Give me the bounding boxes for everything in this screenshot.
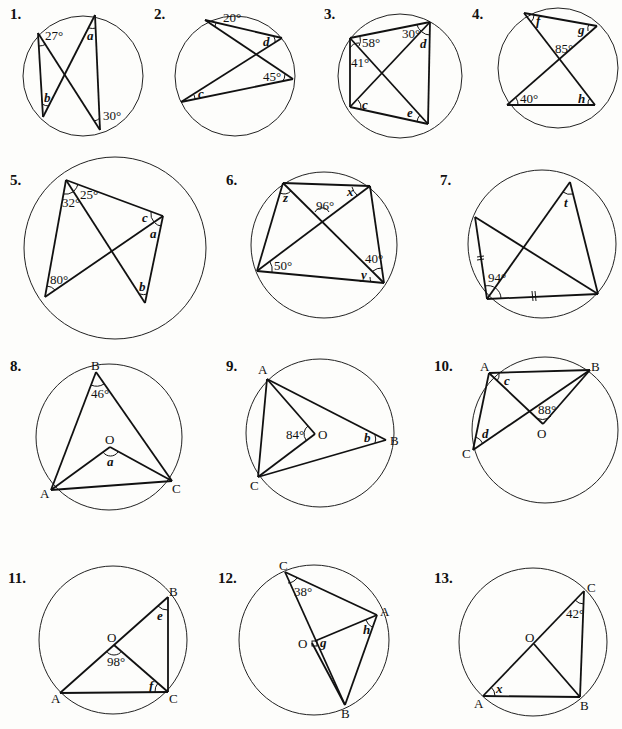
point-label-B: B bbox=[580, 698, 589, 713]
angle-label: c bbox=[362, 97, 368, 112]
angle-label: 32° bbox=[62, 195, 80, 210]
angle-label: d bbox=[420, 36, 427, 51]
point-label-C: C bbox=[169, 691, 178, 706]
angle-label: 88° bbox=[538, 402, 556, 417]
point-label-C: C bbox=[587, 580, 596, 595]
point-label-O: O bbox=[318, 427, 327, 442]
point-label-O: O bbox=[105, 432, 114, 447]
problem-2: 2. 20° d 45° c bbox=[150, 0, 310, 140]
angle-label: g bbox=[577, 22, 585, 37]
angle-label: 30° bbox=[402, 26, 420, 41]
circle-diagram-5: 32° 25° c a 80° b bbox=[0, 160, 200, 310]
angle-label: 84° bbox=[286, 427, 304, 442]
problem-12: 12. C A O B 38° h g bbox=[200, 530, 420, 729]
point-label-A: A bbox=[258, 362, 268, 377]
angle-label: 41° bbox=[351, 55, 369, 70]
point-label-O: O bbox=[525, 630, 534, 645]
problem-4: 4. f g 85° 40° h bbox=[460, 0, 622, 140]
angle-label: y bbox=[359, 267, 367, 282]
angle-label: 98° bbox=[107, 654, 125, 669]
angle-label: 25° bbox=[80, 187, 98, 202]
angle-label: 38° bbox=[294, 584, 312, 599]
problem-5: 5. 32° 25° c a 80° b bbox=[0, 160, 200, 310]
point-label-C: C bbox=[250, 478, 259, 493]
angle-label: c bbox=[198, 86, 204, 101]
angle-label: d bbox=[482, 426, 489, 441]
angle-label: 30° bbox=[103, 108, 121, 123]
angle-label: e bbox=[407, 105, 413, 120]
circle-diagram-11: B O A C e 98° f bbox=[0, 530, 200, 729]
problem-13: 13. C O A B 42° x bbox=[420, 530, 622, 729]
angle-label: b bbox=[139, 279, 146, 294]
point-label-O: O bbox=[107, 630, 116, 645]
point-label-B: B bbox=[390, 433, 399, 448]
circle-diagram-7: t 94° bbox=[420, 160, 622, 310]
point-label-A: A bbox=[51, 691, 61, 706]
angle-label: 96° bbox=[316, 198, 334, 213]
point-label-C: C bbox=[172, 481, 181, 496]
angle-label: 58° bbox=[362, 35, 380, 50]
angle-label: c bbox=[142, 210, 148, 225]
problem-6: 6. z x 96° 50° 40° y bbox=[200, 160, 420, 310]
circle-diagram-9: A O B C 84° b bbox=[200, 320, 420, 510]
point-label-A: A bbox=[40, 486, 50, 501]
point-label-A: A bbox=[474, 696, 484, 711]
angle-label: b bbox=[44, 90, 51, 105]
angle-label: 27° bbox=[45, 28, 63, 43]
problem-11: 11. B O A C e 98° f bbox=[0, 530, 200, 729]
angle-label: x bbox=[495, 681, 503, 696]
circle-diagram-4: f g 85° 40° h bbox=[460, 0, 622, 140]
angle-label: g bbox=[319, 635, 327, 650]
circle-diagram-6: z x 96° 50° 40° y bbox=[200, 160, 420, 310]
point-label-A: A bbox=[480, 359, 490, 374]
angle-label: 42° bbox=[566, 606, 584, 621]
angle-label: 85° bbox=[555, 41, 573, 56]
point-label-C: C bbox=[279, 558, 288, 573]
angle-label: a bbox=[150, 226, 157, 241]
point-label-A: A bbox=[380, 604, 390, 619]
circle-diagram-12: C A O B 38° h g bbox=[200, 530, 420, 729]
angle-label: 80° bbox=[50, 272, 68, 287]
point-label-B: B bbox=[341, 706, 350, 721]
problem-7: 7. t 94° bbox=[420, 160, 622, 310]
angle-label: 46° bbox=[91, 386, 109, 401]
angle-label: 20° bbox=[223, 10, 241, 25]
circle-diagram-3: 58° 41° 30° d c e bbox=[310, 0, 470, 140]
point-label-C: C bbox=[462, 446, 471, 461]
angle-label: e bbox=[157, 608, 163, 623]
angle-label: c bbox=[504, 373, 510, 388]
point-label-O: O bbox=[537, 426, 546, 441]
angle-label: 50° bbox=[274, 258, 292, 273]
circle-diagram-8: B O A C 46° a bbox=[0, 320, 200, 510]
circle-diagram-1: 27° a b 30° bbox=[0, 0, 160, 140]
angle-label: 40° bbox=[365, 251, 383, 266]
angle-label: h bbox=[578, 91, 585, 106]
point-label-B: B bbox=[169, 584, 178, 599]
circle-diagram-10: A B O C c 88° d bbox=[420, 320, 622, 510]
point-label-B: B bbox=[91, 358, 100, 373]
problem-10: 10. A B O C c 88° d bbox=[420, 320, 622, 510]
circle-diagram-13: C O A B 42° x bbox=[420, 530, 622, 729]
angle-label: a bbox=[107, 454, 114, 469]
problem-1: 1. 27° a b 30° bbox=[0, 0, 160, 140]
angle-label: a bbox=[87, 28, 94, 43]
angle-label: t bbox=[564, 195, 568, 210]
angle-label: 94° bbox=[488, 270, 506, 285]
point-label-B: B bbox=[591, 359, 600, 374]
point-label-O: O bbox=[298, 636, 307, 651]
circle-diagram-2: 20° d 45° c bbox=[150, 0, 310, 140]
problem-3: 3. 58° 41° 30° d c e bbox=[310, 0, 470, 140]
angle-label: b bbox=[364, 430, 371, 445]
angle-label: x bbox=[346, 184, 354, 199]
problem-9: 9. A O B C 84° b bbox=[200, 320, 420, 510]
angle-label: 40° bbox=[520, 91, 538, 106]
angle-label: 45° bbox=[263, 69, 281, 84]
problem-8: 8. B O A C 46° a bbox=[0, 320, 200, 510]
angle-label: z bbox=[282, 190, 289, 205]
angle-label: d bbox=[263, 34, 270, 49]
angle-label: h bbox=[363, 622, 370, 637]
